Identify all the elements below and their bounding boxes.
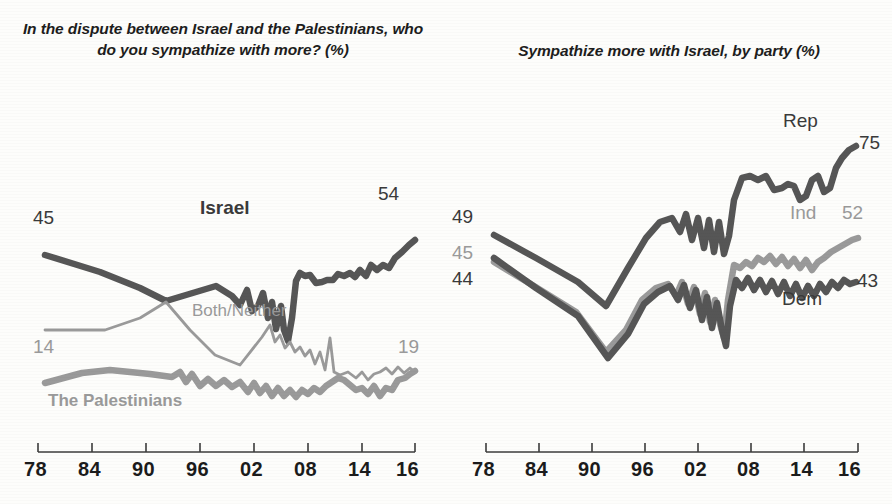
right-plot-area [446, 0, 892, 504]
value-label-palestinians-start: 14 [33, 336, 54, 358]
x-tick-label-96: 96 [186, 458, 209, 481]
value-label-dem-end: 43 [857, 270, 878, 292]
x-tick-label-90-right: 90 [578, 458, 601, 481]
series-label-rep: Rep [783, 110, 818, 132]
x-tick-label-02: 02 [240, 458, 263, 481]
value-label-israel-end: 54 [378, 183, 399, 205]
value-label-israel-start: 45 [33, 207, 54, 229]
value-label-rep-start: 49 [452, 206, 473, 228]
series-line-rep [494, 146, 856, 306]
series-label-ind: Ind [790, 202, 816, 224]
value-label-dem-start: 44 [452, 268, 473, 290]
value-label-ind-start: 45 [452, 242, 473, 264]
x-tick-label-08: 08 [294, 458, 317, 481]
x-tick-label-96-right: 96 [631, 458, 654, 481]
series-label-israel: Israel [200, 197, 250, 219]
left-plot-area [0, 0, 446, 504]
x-tick-label-84-right: 84 [525, 458, 548, 481]
series-label-dem: Dem [782, 288, 822, 310]
series-label-both-neither: Both/Neither [192, 301, 287, 321]
x-tick-label-78: 78 [24, 458, 47, 481]
series-line-israel [45, 240, 415, 341]
x-tick-label-02-right: 02 [684, 458, 707, 481]
x-tick-label-14-right: 14 [790, 458, 813, 481]
value-label-palestinians-end: 19 [398, 336, 419, 358]
x-tick-label-16-right: 16 [838, 458, 861, 481]
x-tick-label-14: 14 [348, 458, 371, 481]
x-tick-label-16: 16 [396, 458, 419, 481]
x-axis-right [486, 443, 858, 452]
x-tick-label-78-right: 78 [472, 458, 495, 481]
x-tick-label-84: 84 [78, 458, 101, 481]
left-plot-svg [0, 0, 446, 504]
chart-panel-left: In the dispute between Israel and the Pa… [0, 0, 446, 504]
x-tick-label-90: 90 [132, 458, 155, 481]
value-label-ind-end: 52 [842, 202, 863, 224]
value-label-rep-end: 75 [859, 132, 880, 154]
x-tick-label-08-right: 08 [737, 458, 760, 481]
right-plot-svg [446, 0, 892, 504]
series-label-palestinians: The Palestinians [48, 391, 182, 411]
chart-panel-right: Sympathize more with Israel, by party (%… [446, 0, 892, 504]
x-axis-left [38, 443, 415, 452]
